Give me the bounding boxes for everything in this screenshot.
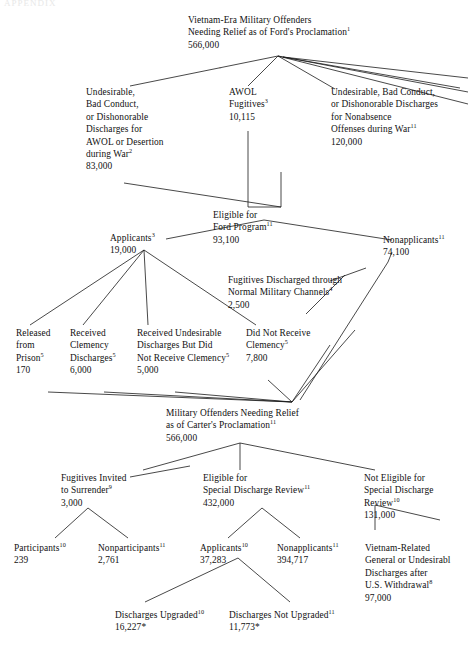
flowchart-diagram: APPENDIX — [0, 0, 469, 653]
node-undesirable-no-clemency: Received Undesirable Discharges But Did … — [137, 327, 229, 377]
node-nonabsence-discharges: Undesirable, Bad Conduct, or Dishonorabl… — [331, 86, 438, 148]
node-discharges-not-upgraded: Discharges Not Upgraded11 11,773* — [229, 609, 335, 634]
node-applicants-ford: Applicants3 19,000 — [110, 232, 155, 257]
node-fugitives-normal-channels: Fugitives Discharged through Normal Mili… — [228, 274, 342, 311]
node-nonapplicants-ford: Nonapplicants11 74,100 — [383, 234, 445, 259]
node-eligible-special-discharge-review: Eligible for Special Discharge Review11 … — [203, 472, 310, 509]
node-nonapplicants-sdr: Nonapplicants11 394,717 — [277, 542, 339, 567]
stray-mark: * — [219, 66, 222, 71]
node-nonparticipants: Nonparticipants11 2,761 — [98, 542, 166, 567]
node-not-eligible-special-discharge-review: Not Eligible for Special Discharge Revie… — [364, 472, 433, 522]
node-ford-total: Vietnam-Era Military Offenders Needing R… — [188, 14, 350, 51]
node-fugitives-invited: Fugitives Invited to Surrender9 3,000 — [61, 472, 127, 509]
node-awol-fugitives: AWOL Fugitives3 10,115 — [229, 86, 268, 123]
node-released-from-prison: Released from Prison5 170 — [16, 327, 51, 377]
node-participants: Participants10 239 — [14, 542, 66, 567]
node-received-clemency-discharges: Received Clemency Discharges5 6,000 — [70, 327, 116, 377]
node-carter-total: Military Offenders Needing Relief as of … — [166, 407, 299, 444]
node-applicants-sdr: Applicants10 37,283 — [200, 542, 248, 567]
node-did-not-receive-clemency: Did Not Receive Clemency5 7,800 — [246, 327, 311, 364]
node-vietnam-related-discharges: Vietnam-Related General or Undesirabl Di… — [365, 542, 450, 604]
node-undesirable-awol: Undesirable, Bad Conduct, or Dishonorabl… — [86, 86, 164, 173]
page-header-faint: APPENDIX — [4, 0, 57, 8]
node-discharges-upgraded: Discharges Upgraded10 16,227* — [115, 609, 204, 634]
node-eligible-ford-program: Eligible for Ford Program11 93,100 — [213, 209, 273, 246]
